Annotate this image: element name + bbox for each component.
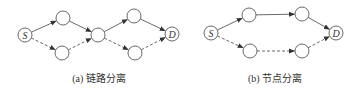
edge-solid-a3-D bbox=[140, 19, 165, 31]
panel-a: SD bbox=[18, 9, 179, 60]
caption-node-disjoint: (b) 节点分离 bbox=[248, 70, 302, 85]
node-relay bbox=[55, 46, 69, 60]
node-relay bbox=[128, 46, 142, 60]
node-relay bbox=[295, 44, 309, 58]
edge-solid-b1-b3 bbox=[256, 14, 295, 15]
edge-solid-m-a3 bbox=[104, 20, 127, 32]
edge-dashed-a2-m bbox=[68, 38, 91, 50]
diagram-root: SDSD (a) 链路分离 (b) 节点分离 bbox=[0, 0, 362, 90]
edge-solid-S-b1 bbox=[217, 18, 242, 30]
node-relay bbox=[56, 11, 70, 25]
diagram-canvas: SDSD bbox=[0, 0, 362, 90]
edge-solid-S-a1 bbox=[31, 21, 56, 32]
edge-solid-a1-m bbox=[69, 21, 91, 32]
caption-link-disjoint: (a) 链路分离 bbox=[72, 70, 126, 85]
edge-dashed-S-b2 bbox=[217, 36, 243, 48]
edge-dashed-m-a4 bbox=[104, 38, 128, 50]
node-relay bbox=[243, 44, 257, 58]
edge-solid-b3-D bbox=[308, 17, 329, 29]
panel-b: SD bbox=[204, 7, 343, 58]
node-label-s: S bbox=[23, 30, 28, 41]
node-relay bbox=[295, 7, 309, 21]
node-relay bbox=[242, 8, 256, 22]
node-relay bbox=[127, 9, 141, 23]
edge-dashed-a4-D bbox=[141, 37, 165, 49]
node-label-d: D bbox=[331, 28, 340, 39]
edge-dashed-S-a2 bbox=[31, 38, 55, 50]
node-relay bbox=[91, 28, 105, 42]
node-label-s: S bbox=[209, 28, 214, 39]
edge-dashed-b4-D bbox=[308, 37, 329, 48]
node-label-d: D bbox=[167, 29, 176, 40]
